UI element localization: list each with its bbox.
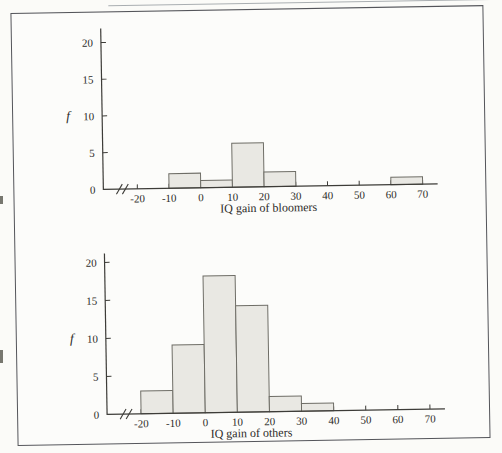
histogram-bar bbox=[301, 403, 333, 411]
y-tick-label: 20 bbox=[85, 257, 97, 269]
x-tick-label: 70 bbox=[417, 188, 429, 200]
x-axis-label: IQ gain of bloomers bbox=[220, 200, 318, 216]
histogram-iq-gain-bloomers: 05101520-20-10010203040506070fIQ gain of… bbox=[12, 12, 486, 232]
x-tick-label: 0 bbox=[203, 416, 209, 428]
x-tick-label: 40 bbox=[328, 414, 340, 426]
y-axis bbox=[104, 253, 107, 414]
y-tick-label: 0 bbox=[90, 184, 96, 196]
x-tick-label: 50 bbox=[360, 414, 372, 426]
histogram-bar bbox=[269, 396, 301, 412]
x-tick-label: 30 bbox=[296, 415, 308, 427]
histogram-bar bbox=[264, 172, 296, 187]
x-tick-label: 60 bbox=[392, 413, 404, 425]
scanned-page: 05101520-20-10010203040506070fIQ gain of… bbox=[0, 0, 502, 453]
histogram-bar bbox=[141, 391, 173, 414]
y-axis-label: f bbox=[66, 108, 72, 123]
y-tick-label: 5 bbox=[93, 371, 99, 383]
histogram-bar bbox=[391, 177, 423, 185]
histogram-iq-gain-others: 05101520-20-10010203040506070fIQ gain of… bbox=[15, 238, 489, 453]
x-tick-label: 50 bbox=[354, 189, 366, 201]
figure-frame: 05101520-20-10010203040506070fIQ gain of… bbox=[10, 5, 490, 446]
x-tick-label: 60 bbox=[385, 188, 397, 200]
x-tick-label: -10 bbox=[166, 417, 181, 429]
y-tick-label: 15 bbox=[86, 295, 98, 307]
histogram-svg: 05101520-20-10010203040506070fIQ gain of… bbox=[15, 238, 489, 453]
y-tick-label: 15 bbox=[82, 73, 94, 85]
x-tick-label: 70 bbox=[425, 412, 437, 424]
histogram-bar bbox=[232, 143, 264, 188]
x-tick-label: 40 bbox=[322, 189, 334, 201]
scan-speck bbox=[0, 196, 3, 204]
y-tick-label: 5 bbox=[89, 147, 95, 159]
y-axis bbox=[101, 28, 104, 189]
histogram-bar bbox=[169, 173, 201, 188]
histogram-svg: 05101520-20-10010203040506070fIQ gain of… bbox=[12, 12, 486, 232]
y-axis-label: f bbox=[70, 331, 76, 346]
x-axis-label: IQ gain of others bbox=[210, 425, 292, 440]
scan-speck bbox=[0, 350, 3, 363]
histogram-bar bbox=[236, 305, 270, 412]
x-tick-label: -20 bbox=[130, 192, 145, 204]
y-tick-label: 0 bbox=[93, 409, 99, 421]
x-tick-label: 0 bbox=[198, 191, 204, 203]
histogram-bar bbox=[201, 180, 233, 188]
x-tick-label: -20 bbox=[134, 417, 149, 429]
histogram-bar bbox=[172, 344, 205, 413]
y-tick-label: 20 bbox=[82, 37, 94, 49]
y-tick-label: 10 bbox=[87, 333, 99, 345]
y-tick-label: 10 bbox=[83, 110, 95, 122]
x-tick-label: -10 bbox=[162, 192, 177, 204]
histogram-bar bbox=[203, 275, 237, 412]
